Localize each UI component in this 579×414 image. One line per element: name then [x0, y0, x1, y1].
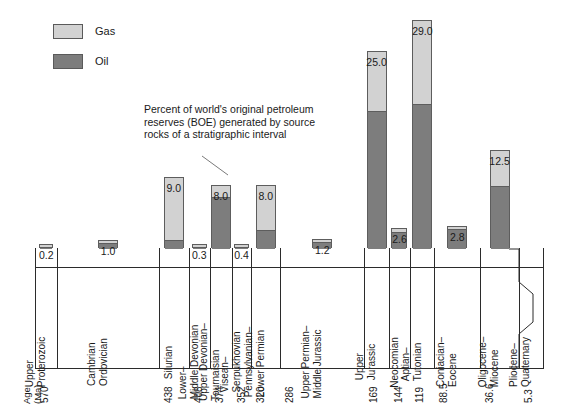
age-label: 88.5	[438, 384, 449, 403]
bar-segment-oil	[257, 230, 275, 249]
bar-segment-oil	[491, 186, 509, 249]
bar-upper-jurassic	[367, 51, 387, 248]
category-column-cambrian-ordovician: CambrianOrdovician	[57, 248, 158, 368]
category-label: Aptian–Tutonian	[400, 343, 423, 382]
stratigraphic-column-table: UpperProterozoicCambrianOrdovicianSiluri…	[35, 248, 544, 368]
chart-figure: Gas Oil Percent of world's original petr…	[0, 0, 579, 414]
category-column-upper-jurassic: UpperJurassic	[364, 248, 388, 368]
category-label: Silurian	[163, 345, 175, 378]
category-label: Visean–Serpukhovian	[219, 331, 242, 392]
age-tick	[434, 248, 435, 254]
category-column-aptian-tutonian: Aptian–Tutonian	[410, 248, 434, 368]
bar-value-label: 8.0	[199, 190, 243, 202]
age-tick	[210, 248, 211, 254]
category-label: Neocomian	[388, 337, 400, 388]
category-label: Oligocene–Miocene	[477, 337, 500, 388]
age-tick	[35, 248, 36, 254]
bar-value-label: 2.8	[435, 231, 479, 243]
bar-value-label: 12.5	[478, 155, 522, 167]
age-label: 408	[193, 386, 204, 403]
category-column-upper-permian-middle-jurassic: Upper Permian–Middle Jurassic	[280, 248, 364, 368]
plot-area: 0.21.09.00.38.00.48.01.225.02.629.02.812…	[35, 20, 555, 248]
age-label: 5.3	[523, 389, 534, 403]
category-label: Coniacian–Eocene	[435, 337, 458, 387]
age-label: 144	[393, 386, 404, 403]
age-axis-header-line2: (Ma)	[32, 384, 43, 404]
bar-value-label: 25.0	[355, 56, 399, 68]
bar-segment-oil	[413, 104, 431, 249]
bar-segment-oil	[212, 197, 230, 249]
bar-value-label: 29.0	[400, 25, 444, 37]
age-tick	[189, 248, 190, 254]
age-label: 36.6	[484, 384, 495, 403]
age-tick	[480, 248, 481, 254]
age-tick	[364, 248, 365, 254]
category-label: UpperProterozoic	[24, 337, 47, 388]
age-axis-header-line1: Age	[22, 387, 33, 404]
bar-segment-oil	[368, 111, 386, 249]
category-label: Upper Permian–Middle Jurassic	[300, 326, 323, 399]
category-label: UpperJurassic	[354, 344, 377, 381]
category-column-pennsylvanian-lower-permian: Pennsylvanian–Lower Permian	[251, 248, 280, 368]
age-label: 169	[368, 386, 379, 403]
age-label: 438	[163, 386, 174, 403]
bar-aptian-tutonian	[412, 20, 432, 248]
age-tick	[389, 248, 390, 254]
age-tick	[232, 248, 233, 254]
bar-value-label: 8.0	[244, 190, 288, 202]
age-tick	[251, 248, 252, 254]
age-tick	[159, 248, 160, 254]
age-tick	[280, 248, 281, 254]
age-label: 286	[284, 386, 295, 403]
table-bottom-border	[35, 368, 544, 369]
category-column-coniacian-eocene: Coniacian–Eocene	[434, 248, 480, 368]
age-label: 119	[414, 387, 425, 403]
quaternary-bracket-icon	[509, 248, 545, 370]
age-label: 374	[214, 386, 225, 403]
category-column-upper-proterozoic: UpperProterozoic	[35, 248, 57, 368]
age-label: 320	[255, 386, 266, 403]
category-label: CambrianOrdovician	[86, 338, 109, 386]
age-tick	[519, 248, 520, 254]
age-label: 352	[236, 386, 247, 403]
age-tick	[410, 248, 411, 254]
bar-value-label: 9.0	[152, 182, 196, 194]
